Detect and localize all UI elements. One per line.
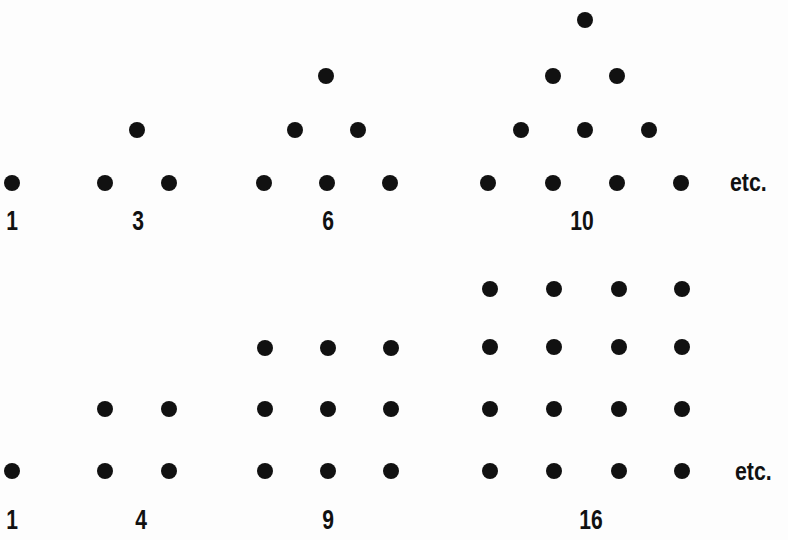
dot: [609, 68, 625, 84]
dot: [674, 401, 690, 417]
dot: [320, 401, 336, 417]
dot: [482, 281, 498, 297]
dot: [673, 175, 689, 191]
dot: [482, 463, 498, 479]
dot: [320, 340, 336, 356]
dot: [674, 463, 690, 479]
dot: [546, 401, 562, 417]
dot: [383, 401, 399, 417]
dot: [546, 281, 562, 297]
dot: [161, 463, 177, 479]
dot: [674, 339, 690, 355]
dot: [97, 463, 113, 479]
triangular-numbers-label: 6: [322, 208, 334, 235]
dot: [641, 122, 657, 138]
dot: [609, 175, 625, 191]
dot: [545, 68, 561, 84]
dot: [545, 175, 561, 191]
dot: [382, 175, 398, 191]
dot: [318, 68, 334, 84]
dot: [161, 401, 177, 417]
dot: [577, 12, 593, 28]
dot: [674, 281, 690, 297]
dot: [611, 281, 627, 297]
dot: [577, 122, 593, 138]
dot: [611, 339, 627, 355]
square-numbers-label: 9: [322, 507, 334, 534]
dot: [480, 175, 496, 191]
etc-label: etc.: [730, 169, 767, 195]
dot: [482, 401, 498, 417]
dot: [611, 463, 627, 479]
dot: [97, 401, 113, 417]
triangular-numbers-label: 10: [570, 208, 593, 235]
etc-label: etc.: [735, 458, 772, 484]
dot: [129, 122, 145, 138]
dot: [257, 401, 273, 417]
dot: [257, 340, 273, 356]
dot: [482, 339, 498, 355]
dot: [256, 175, 272, 191]
dot: [546, 339, 562, 355]
triangular-numbers-label: 3: [132, 208, 144, 235]
dot: [287, 122, 303, 138]
dot: [611, 401, 627, 417]
dot: [320, 463, 336, 479]
dot: [4, 463, 20, 479]
dot: [383, 463, 399, 479]
dot: [383, 340, 399, 356]
square-numbers-label: 4: [135, 507, 147, 534]
dot: [546, 463, 562, 479]
triangular-numbers-label: 1: [6, 208, 18, 235]
square-numbers-label: 1: [6, 507, 18, 534]
dot: [257, 463, 273, 479]
dot: [161, 175, 177, 191]
square-numbers-label: 16: [579, 507, 602, 534]
dot: [350, 122, 366, 138]
dot: [319, 175, 335, 191]
dot: [4, 175, 20, 191]
dot: [97, 175, 113, 191]
dot: [513, 122, 529, 138]
